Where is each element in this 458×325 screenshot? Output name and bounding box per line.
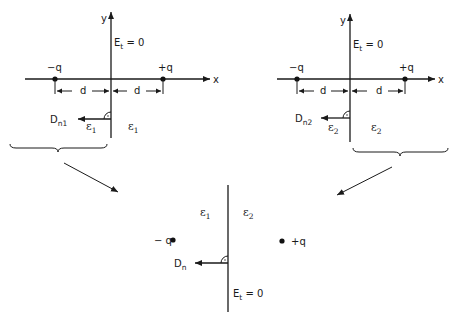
negative-charge-label: − q: [154, 235, 172, 246]
flux-density-label: Dn2: [295, 113, 312, 127]
combined-panel: ε1 ε2 − q +q Dn Et = 0: [154, 185, 306, 312]
right-angle-mark: [104, 112, 111, 119]
permittivity-right: ε2: [243, 206, 254, 221]
flux-density-label: Dn: [174, 258, 187, 272]
grouping-brace: [353, 148, 448, 156]
dielectric-image-charge-diagram: x y Et = 0 −q +q d d Dn1 ε1 ε1 x y Et =: [0, 0, 458, 325]
positive-charge: [279, 238, 284, 243]
permittivity-left: ε1: [86, 120, 96, 135]
tangential-field-label: Et = 0: [114, 37, 144, 51]
distance-label-right: d: [376, 85, 382, 96]
positive-charge-label: +q: [291, 236, 306, 247]
positive-charge-label: +q: [399, 62, 414, 73]
y-axis-label: y: [340, 15, 346, 26]
permittivity-right: ε2: [371, 121, 382, 136]
right-angle-dot: [224, 259, 225, 260]
right-angle-mark: [343, 111, 350, 118]
negative-charge-label: −q: [47, 62, 62, 73]
right-angle-dot: [107, 115, 108, 116]
y-axis-label: y: [101, 13, 107, 24]
permittivity-left: ε2: [328, 121, 339, 136]
negative-charge: [170, 237, 175, 242]
positive-charge-label: +q: [158, 62, 173, 73]
permittivity-left: ε1: [200, 206, 210, 221]
x-axis-label: x: [438, 74, 444, 85]
negative-charge-label: −q: [289, 62, 304, 73]
right-angle-dot: [346, 114, 347, 115]
tangential-field-label: Et = 0: [353, 39, 383, 53]
distance-label-left: d: [320, 85, 326, 96]
left-panel: x y Et = 0 −q +q d d Dn1 ε1 ε1: [10, 12, 219, 192]
x-axis-label: x: [213, 74, 219, 85]
combine-arrow: [337, 167, 392, 195]
flux-density-label: Dn1: [50, 114, 67, 128]
grouping-brace: [10, 144, 107, 152]
tangential-field-label: Et = 0: [233, 288, 263, 302]
distance-label-left: d: [80, 85, 86, 96]
permittivity-right: ε1: [128, 120, 138, 135]
right-panel: x y Et = 0 −q +q d d Dn2 ε2 ε2: [277, 14, 448, 195]
right-angle-mark: [221, 256, 228, 263]
distance-label-right: d: [134, 85, 140, 96]
combine-arrow: [64, 163, 118, 192]
